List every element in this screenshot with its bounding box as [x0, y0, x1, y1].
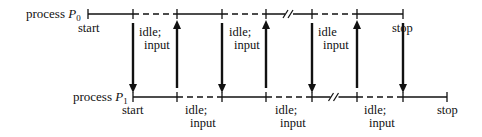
down-arrow-icon [399, 84, 407, 93]
up-arrow-icon [353, 20, 361, 29]
p0-idle-2-line2: input [229, 39, 260, 52]
p0-stop-label: stop [392, 22, 413, 35]
p1-start-label: start [122, 104, 144, 117]
up-arrow-icon [262, 20, 270, 29]
process-p0-var: P [68, 6, 76, 21]
p0-idle-label-2: idle; input [229, 26, 260, 52]
p1-stop-label: stop [437, 104, 458, 117]
p1-idle-2-line2: input [275, 117, 306, 130]
down-arrow-icon [218, 84, 226, 93]
process-p1-label: process P1 [73, 90, 128, 108]
p1-idle-label-3: idle; input [364, 104, 395, 130]
process-p1-prefix: process [73, 89, 115, 104]
p0-start-label: start [78, 22, 100, 35]
process-p1-var: P [115, 89, 123, 104]
p1-idle-label-2: idle; input [275, 104, 306, 130]
process-timeline-diagram: process P0 process P1 start idle; input … [0, 0, 482, 137]
p1-idle-1-line2: input [185, 117, 216, 130]
p1-idle-3-line2: input [364, 117, 395, 130]
p0-idle-1-line2: input [139, 39, 170, 52]
p0-idle-label-1: idle; input [139, 26, 170, 52]
p0-idle-label-3: idle input [318, 26, 349, 52]
down-arrow-icon [308, 84, 316, 93]
p1-idle-label-1: idle; input [185, 104, 216, 130]
p0-idle-3-line2: input [318, 39, 349, 52]
process-p0-prefix: process [26, 6, 68, 21]
process-p0-label: process P0 [26, 7, 81, 25]
down-arrow-icon [129, 84, 137, 93]
up-arrow-icon [173, 20, 181, 29]
